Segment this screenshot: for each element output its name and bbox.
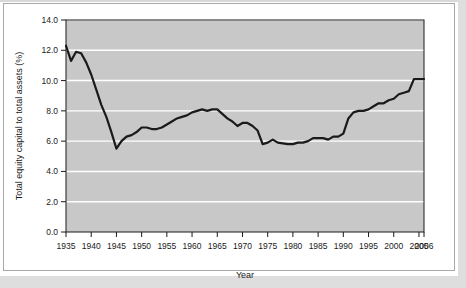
y-axis-title: Total equity capital to total assets (%) xyxy=(14,52,24,201)
y-tick-label: 0.0 xyxy=(46,227,58,237)
x-tick-label: 1980 xyxy=(283,241,302,251)
x-tick-label: 1955 xyxy=(157,241,176,251)
y-tick-label: 8.0 xyxy=(46,106,58,116)
y-axis-ticks: 0.02.04.06.08.010.012.014.0 xyxy=(41,15,66,237)
y-tick-label: 2.0 xyxy=(46,197,58,207)
x-tick-label: 2000 xyxy=(384,241,403,251)
y-tick-label: 6.0 xyxy=(46,136,58,146)
x-tick-label: 1990 xyxy=(334,241,353,251)
x-axis-ticks: 1935194019451950195519601965197019751980… xyxy=(57,232,434,251)
x-tick-label: 1945 xyxy=(107,241,126,251)
line-chart: 0.02.04.06.08.010.012.014.0 193519401945… xyxy=(0,0,466,288)
x-tick-label: 1975 xyxy=(258,241,277,251)
y-tick-label: 12.0 xyxy=(41,45,58,55)
x-tick-label: 1985 xyxy=(309,241,328,251)
plot-area-background xyxy=(66,20,424,232)
x-tick-label: 1935 xyxy=(57,241,76,251)
x-tick-label: 1995 xyxy=(359,241,378,251)
figure-canvas: 0.02.04.06.08.010.012.014.0 193519401945… xyxy=(0,0,466,288)
x-tick-label: 1950 xyxy=(132,241,151,251)
x-axis-title: Year xyxy=(236,270,254,280)
x-tick-label: 1970 xyxy=(233,241,252,251)
x-tick-label: 1940 xyxy=(82,241,101,251)
y-tick-label: 14.0 xyxy=(41,15,58,25)
x-tick-label: 1960 xyxy=(183,241,202,251)
x-tick-label: 2006 xyxy=(415,241,434,251)
y-tick-label: 10.0 xyxy=(41,76,58,86)
y-tick-label: 4.0 xyxy=(46,166,58,176)
x-tick-label: 1965 xyxy=(208,241,227,251)
